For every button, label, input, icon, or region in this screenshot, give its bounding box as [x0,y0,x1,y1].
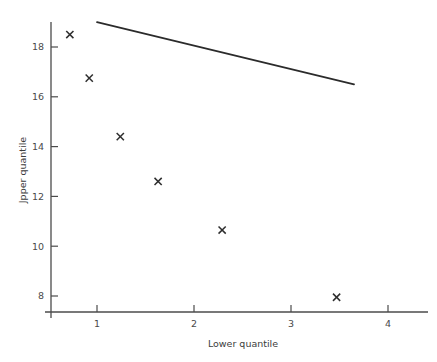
y-tick-label: 12 [32,191,44,202]
y-tick-label: 16 [32,91,44,102]
y-axis-label: Jpper quantile [17,137,28,205]
scatter-plot-figure: 81012141618 1234 Lower quantile Jpper qu… [0,0,437,362]
x-tick-label: 1 [94,318,100,329]
y-tick-label: 18 [32,41,44,52]
x-axis: 1234 [45,305,428,329]
x-tick-label: 3 [288,318,294,329]
data-point-marker [155,178,162,185]
y-tick-label: 10 [32,241,44,252]
plot-canvas: 81012141618 1234 Lower quantile Jpper qu… [0,0,437,362]
data-point-marker [219,226,226,233]
x-tick-label: 2 [191,318,197,329]
y-axis-ticks: 81012141618 [32,41,58,301]
fitted-reference-line [97,22,354,84]
y-tick-label: 8 [38,290,44,301]
data-point-marker [333,294,340,301]
data-point-marker [66,31,73,38]
y-tick-label: 14 [32,141,44,152]
x-tick-label: 4 [385,318,391,329]
y-axis: 81012141618 [32,22,58,318]
data-point-marker [86,75,93,82]
fit-line-segment [97,22,354,84]
data-point-marker [117,133,124,140]
x-axis-ticks: 1234 [94,305,391,329]
x-axis-label: Lower quantile [208,338,278,349]
